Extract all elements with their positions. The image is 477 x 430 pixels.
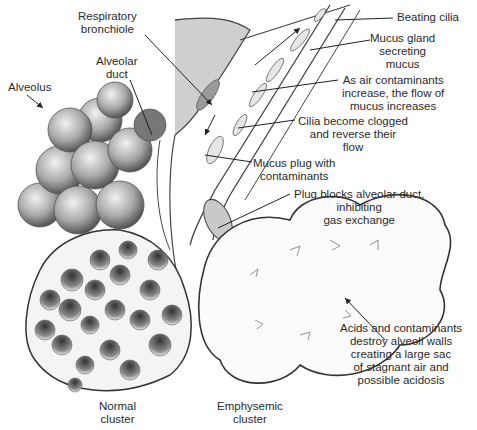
label-plug-blocks: Plug blocks alveolar duct, inhibiting ga… xyxy=(294,188,424,227)
label-cilia-clogged: Cilia become clogged and reverse their f… xyxy=(298,115,408,154)
label-mucus-plug: Mucus plug with contaminants xyxy=(253,157,335,183)
normal-cluster xyxy=(26,230,191,392)
label-respiratory-bronchiole: Respiratory bronchiole xyxy=(78,10,137,36)
label-alveolar-duct: Alveolar duct xyxy=(96,55,138,81)
label-beating-cilia: Beating cilia xyxy=(397,11,459,24)
label-mucus-gland: Mucus gland secreting mucus xyxy=(370,32,435,71)
label-air-contaminants: As air contaminants increase, the flow o… xyxy=(342,74,444,113)
label-acids: Acids and contaminants destroy alveoli w… xyxy=(340,322,462,387)
label-alveolus: Alveolus xyxy=(8,81,51,94)
label-emphysemic-cluster: Emphysemic cluster xyxy=(217,400,283,426)
alveolus-cluster xyxy=(18,82,166,234)
label-normal-cluster: Normal cluster xyxy=(99,400,136,426)
